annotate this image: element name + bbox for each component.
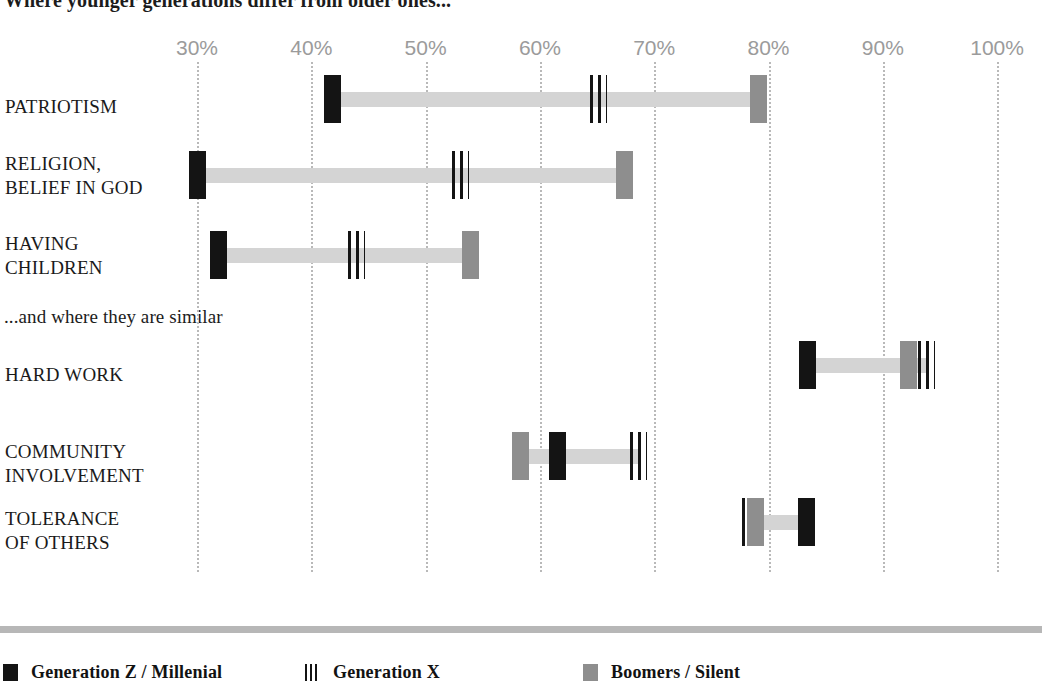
row-label: RELIGION, BELIEF IN GOD	[5, 152, 143, 200]
marker-generation-z	[549, 432, 566, 480]
marker-boomers	[616, 151, 633, 199]
marker-generation-x	[630, 432, 647, 480]
x-axis-tick-label: 30%	[176, 36, 218, 60]
footer-divider	[0, 626, 1042, 633]
x-axis-tick-label: 50%	[405, 36, 447, 60]
marker-generation-x	[918, 341, 935, 389]
row-label: PATRIOTISM	[5, 95, 117, 119]
marker-generation-x	[590, 75, 607, 123]
marker-generation-z	[798, 498, 815, 546]
range-connector	[218, 248, 471, 263]
range-connector	[197, 168, 624, 183]
gridline	[311, 62, 313, 572]
x-axis-tick-label: 60%	[519, 36, 561, 60]
legend-label: Generation Z / Millenial	[31, 662, 222, 683]
gridline	[426, 62, 428, 572]
x-axis-tick-label: 100%	[970, 36, 1024, 60]
plot-area: PATRIOTISMRELIGION, BELIEF IN GODHAVING …	[0, 0, 1042, 687]
marker-boomers	[900, 341, 917, 389]
marker-generation-z	[324, 75, 341, 123]
gridline	[197, 62, 199, 572]
legend-label: Boomers / Silent	[611, 662, 740, 683]
marker-boomers	[462, 231, 479, 279]
marker-generation-x	[452, 151, 469, 199]
legend-swatch-icon	[3, 664, 18, 681]
legend-item: Generation X	[305, 660, 440, 684]
legend-swatch-icon	[583, 664, 598, 681]
legend-swatch-icon	[305, 664, 320, 681]
range-connector	[750, 515, 806, 530]
range-connector	[520, 449, 638, 464]
marker-boomers	[747, 498, 764, 546]
marker-generation-x	[742, 498, 759, 546]
range-connector	[807, 358, 926, 373]
marker-generation-z	[799, 341, 816, 389]
chart-headline-top: Where younger generations differ from ol…	[4, 0, 451, 12]
gridline	[540, 62, 542, 572]
gridline	[883, 62, 885, 572]
row-label: HARD WORK	[5, 363, 123, 387]
row-label: COMMUNITY INVOLVEMENT	[5, 440, 144, 488]
gridline	[654, 62, 656, 572]
marker-boomers	[750, 75, 767, 123]
legend-label: Generation X	[333, 662, 440, 683]
gridline	[769, 62, 771, 572]
row-label: TOLERANCE OF OTHERS	[5, 507, 119, 555]
marker-generation-z	[210, 231, 227, 279]
x-axis-tick-label: 90%	[862, 36, 904, 60]
marker-generation-x	[348, 231, 365, 279]
x-axis-tick-label: 80%	[747, 36, 789, 60]
chart-headline-middle: ...and where they are similar	[4, 306, 223, 328]
x-axis-tick-label: 70%	[633, 36, 675, 60]
chart-root: Where younger generations differ from ol…	[0, 0, 1042, 687]
x-axis-tick-label: 40%	[290, 36, 332, 60]
row-label: HAVING CHILDREN	[5, 232, 103, 280]
legend-item: Boomers / Silent	[583, 660, 740, 684]
gridline	[997, 62, 999, 572]
marker-boomers	[512, 432, 529, 480]
legend-item: Generation Z / Millenial	[3, 660, 222, 684]
range-connector	[332, 92, 758, 107]
